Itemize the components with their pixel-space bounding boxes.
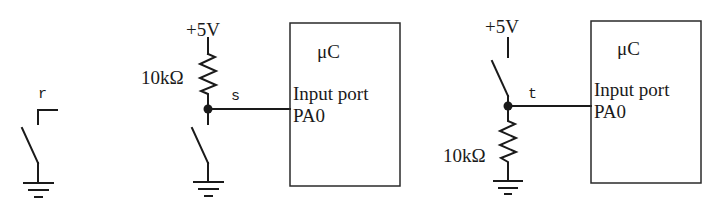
switch-lever-icon: [192, 128, 208, 163]
mcu-pin-label: PA0: [594, 101, 626, 122]
microcontroller-box: μC Input port PA0: [591, 21, 701, 183]
open-terminal: [38, 110, 57, 124]
mcu-pin-label: PA0: [293, 105, 325, 126]
switch-lever-icon: [492, 61, 508, 96]
ground-icon: [494, 181, 522, 194]
ground-icon: [194, 182, 223, 196]
circuit-s: +5V 10kΩ s μC Input port PA0: [141, 19, 400, 196]
switch-lever-icon: [22, 128, 38, 163]
ground-icon: [24, 183, 53, 197]
resistor-label: 10kΩ: [443, 145, 486, 166]
resistor-icon: [500, 106, 516, 181]
resistor-label: 10kΩ: [141, 67, 184, 88]
node-label-s: s: [231, 88, 240, 105]
mcu-title: μC: [317, 41, 340, 62]
supply-label: +5V: [186, 19, 220, 40]
mcu-title: μC: [617, 38, 640, 59]
mcu-port-label: Input port: [293, 83, 369, 104]
circuit-r: r: [22, 86, 57, 197]
resistor-icon: [200, 54, 216, 109]
mcu-port-label: Input port: [594, 79, 670, 100]
microcontroller-box: μC Input port PA0: [290, 23, 400, 186]
node-label-r: r: [38, 86, 47, 103]
circuit-t: +5V t 10kΩ μC Input port PA0: [443, 16, 701, 194]
supply-label: +5V: [485, 16, 519, 37]
circuit-diagram: r +5V 10kΩ s: [0, 0, 720, 204]
node-label-t: t: [528, 86, 537, 103]
